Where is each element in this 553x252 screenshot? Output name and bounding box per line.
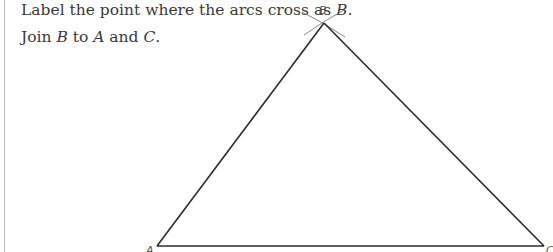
label-c: C [546, 244, 553, 252]
side-bc [324, 23, 544, 246]
label-b: B [319, 4, 327, 17]
triangle-diagram: B A C [0, 0, 553, 252]
label-a: A [145, 244, 154, 252]
side-ab [157, 23, 324, 246]
